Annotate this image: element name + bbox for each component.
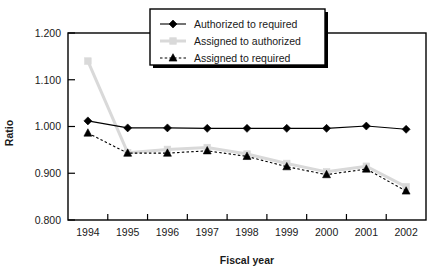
x-axis-title: Fiscal year (220, 254, 274, 266)
y-axis-title: Ratio (3, 120, 15, 146)
legend-label: Assigned to authorized (194, 35, 301, 47)
data-point-square (170, 38, 177, 45)
legend-label: Assigned to required (194, 52, 290, 64)
x-tick-label: 2002 (394, 226, 418, 238)
y-tick-label: 0.800 (35, 214, 61, 226)
y-tick-label: 1.000 (35, 120, 61, 132)
x-axis-tick-labels: 199419951996199719981999200020012002 (76, 226, 418, 238)
y-tick-label: 1.100 (35, 74, 61, 86)
x-tick-label: 1999 (275, 226, 299, 238)
chart-canvas: 0.8000.9001.0001.1001.200 19941995199619… (0, 0, 437, 273)
y-tick-label: 0.900 (35, 167, 61, 179)
legend-label: Authorized to required (194, 18, 297, 30)
line-chart: 0.8000.9001.0001.1001.200 19941995199619… (0, 0, 437, 273)
x-tick-label: 1997 (196, 226, 220, 238)
data-point-square (85, 58, 92, 65)
y-tick-label: 1.200 (35, 27, 61, 39)
x-tick-label: 1996 (156, 226, 180, 238)
x-tick-label: 1995 (116, 226, 140, 238)
x-tick-label: 2001 (355, 226, 379, 238)
x-tick-label: 1998 (235, 226, 259, 238)
chart-legend: Authorized to requiredAssigned to author… (150, 9, 328, 68)
x-tick-label: 1994 (76, 226, 100, 238)
x-tick-label: 2000 (315, 226, 339, 238)
